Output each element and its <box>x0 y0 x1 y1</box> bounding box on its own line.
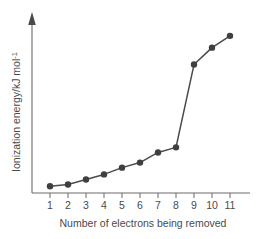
data-point <box>137 159 143 165</box>
data-point <box>119 164 125 170</box>
x-axis-title: Number of electrons being removed <box>60 217 227 229</box>
data-point <box>173 144 179 150</box>
x-tick-labels: 1 2 3 4 5 6 7 8 9 10 11 <box>47 199 236 211</box>
data-point <box>209 44 215 50</box>
x-tick-label: 10 <box>206 199 218 211</box>
x-tick-label: 6 <box>137 199 143 211</box>
x-tick-label: 8 <box>173 199 179 211</box>
y-axis-title: Ionization energy/kJ mol-1 <box>10 52 23 172</box>
y-axis-title-superscript: -1 <box>10 52 19 59</box>
data-point-markers <box>47 33 233 190</box>
data-point <box>65 181 71 187</box>
y-axis <box>28 12 36 193</box>
x-tick-label: 3 <box>83 199 89 211</box>
x-axis <box>32 193 250 198</box>
x-tick-label: 9 <box>191 199 197 211</box>
data-point <box>83 176 89 182</box>
chart-canvas: 1 2 3 4 5 6 7 8 9 10 11 Number of electr… <box>0 0 261 239</box>
ionization-energy-chart: 1 2 3 4 5 6 7 8 9 10 11 Number of electr… <box>0 0 261 239</box>
x-tick-label: 2 <box>65 199 71 211</box>
data-point <box>191 61 197 67</box>
data-point <box>155 149 161 155</box>
y-axis-arrow-icon <box>28 12 36 25</box>
x-tick-label: 4 <box>101 199 107 211</box>
data-point <box>101 171 107 177</box>
data-point <box>227 33 233 39</box>
x-tick-label: 11 <box>225 199 236 211</box>
data-point <box>47 183 53 189</box>
x-tick-label: 1 <box>47 199 53 211</box>
x-tick-label: 7 <box>155 199 161 211</box>
y-axis-title-text: Ionization energy/kJ mol <box>10 59 22 172</box>
x-tick-label: 5 <box>119 199 125 211</box>
